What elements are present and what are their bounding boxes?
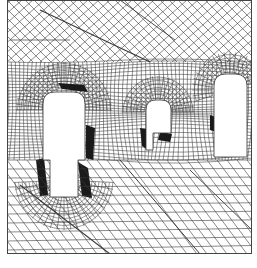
lower-diag-line — [107, 160, 177, 254]
middle-vertical-line — [99, 62, 100, 160]
upper-diag-line — [142, 0, 204, 62]
lower-diag-line — [0, 160, 17, 254]
upper-antidiag-line — [183, 0, 253, 62]
lower-diag-line — [0, 160, 37, 254]
dense-mesh-zone — [78, 162, 92, 198]
radial-mesh-line — [66, 194, 71, 230]
radial-mesh-line — [238, 56, 247, 74]
upper-diag-line — [133, 0, 195, 62]
upper-diag-line — [160, 0, 222, 62]
middle-vertical-line — [173, 62, 177, 160]
upper-diag-line — [169, 0, 231, 62]
upper-diag-line — [43, 0, 105, 62]
lower-diag-line — [87, 160, 157, 254]
lower-diag-line — [117, 160, 187, 254]
lower-diag-line — [0, 160, 7, 254]
radial-mesh-line — [57, 194, 62, 230]
lower-diag-line — [167, 160, 237, 254]
lower-diag-line — [197, 160, 257, 254]
middle-vertical-line — [23, 62, 25, 160]
middle-vertical-line — [141, 62, 142, 160]
upper-diag-line — [61, 0, 123, 62]
middle-vertical-line — [27, 62, 30, 160]
upper-antidiag-line — [139, 0, 209, 62]
dense-mesh-zone — [158, 132, 172, 142]
middle-vertical-line — [187, 62, 189, 160]
lower-diag-line — [187, 160, 257, 254]
lower-diag-line — [147, 160, 217, 254]
lower-diag-line — [127, 160, 197, 254]
upper-diag-line — [115, 0, 177, 62]
upper-diag-line — [7, 0, 69, 62]
upper-antidiag-line — [29, 0, 99, 62]
upper-diag-line — [16, 0, 78, 62]
upper-antidiag-line — [40, 0, 110, 62]
upper-antidiag-line — [216, 0, 257, 62]
upper-diag-line — [0, 0, 6, 62]
upper-antidiag-line — [172, 0, 242, 62]
upper-diag-line — [0, 0, 42, 62]
lower-diag-line — [137, 160, 207, 254]
fe-mesh-diagram — [0, 0, 257, 268]
middle-vertical-line — [190, 62, 193, 160]
radial-mesh-line — [194, 96, 213, 102]
lower-diag-line — [157, 160, 227, 254]
upper-antidiag-line — [0, 0, 44, 62]
upper-diag-line — [34, 0, 96, 62]
upper-diag-line — [106, 0, 168, 62]
upper-diag-line — [70, 0, 132, 62]
radial-mesh-line — [50, 193, 60, 228]
right-opening — [214, 74, 247, 157]
lower-diag-line — [237, 160, 257, 254]
upper-antidiag-line — [238, 0, 257, 62]
middle-vertical-line — [136, 62, 139, 160]
lower-horizontal-line — [7, 237, 252, 241]
left-opening — [43, 92, 85, 197]
upper-antidiag-line — [84, 0, 154, 62]
